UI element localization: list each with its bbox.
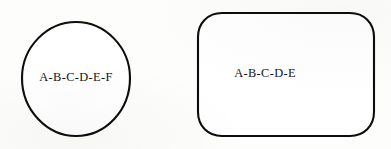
shapes-svg: A-B-C-D-E-F A-B-C-D-E [0,0,391,149]
diagram-canvas: A-B-C-D-E-F A-B-C-D-E [0,0,391,149]
rounded-rectangle-shape-label: A-B-C-D-E [234,66,296,80]
circle-shape-label: A-B-C-D-E-F [39,70,112,84]
